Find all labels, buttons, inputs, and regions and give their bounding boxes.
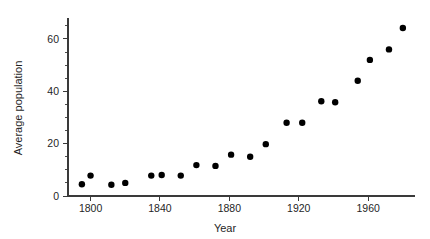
data-point — [400, 25, 406, 31]
y-axis-ticks — [63, 26, 68, 196]
x-axis-ticks — [91, 196, 369, 201]
x-tick-label: 1880 — [218, 202, 242, 214]
data-point — [108, 182, 114, 188]
y-tick-label: 0 — [53, 190, 59, 202]
data-point — [283, 120, 289, 126]
data-point — [122, 180, 128, 186]
axis-spines — [68, 18, 415, 196]
x-tick-label: 1960 — [356, 202, 380, 214]
y-tick-label: 20 — [47, 137, 59, 149]
data-point — [148, 172, 154, 178]
data-point — [263, 141, 269, 147]
x-axis-tick-labels: 18001840188019201960 — [79, 202, 380, 214]
y-axis-title: Average population — [12, 61, 24, 156]
data-point — [79, 181, 85, 187]
axes-group — [68, 18, 415, 196]
x-axis-title: Year — [214, 222, 237, 234]
x-tick-label: 1800 — [79, 202, 103, 214]
y-axis-tick-labels: 0204060 — [47, 33, 59, 202]
x-tick-label: 1920 — [287, 202, 311, 214]
scatter-chart-figure: 0204060 18001840188019201960 Average pop… — [0, 0, 430, 239]
data-point — [193, 162, 199, 168]
data-point — [367, 57, 373, 63]
data-point — [87, 172, 93, 178]
data-point — [299, 120, 305, 126]
data-point — [332, 99, 338, 105]
y-tick-label: 60 — [47, 33, 59, 45]
data-point — [212, 163, 218, 169]
data-point — [355, 78, 361, 84]
data-point — [247, 154, 253, 160]
data-point — [386, 46, 392, 52]
y-tick-label: 40 — [47, 85, 59, 97]
data-point — [178, 172, 184, 178]
data-point — [228, 151, 234, 157]
data-point — [318, 98, 324, 104]
data-points-group — [79, 25, 406, 188]
data-point — [158, 172, 164, 178]
chart-canvas: 0204060 18001840188019201960 Average pop… — [0, 0, 430, 239]
x-tick-label: 1840 — [148, 202, 172, 214]
